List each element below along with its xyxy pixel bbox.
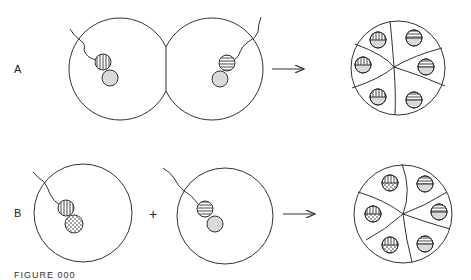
rosette-b (354, 164, 452, 263)
tail-a-right (234, 17, 261, 60)
tail-b-left (33, 172, 60, 205)
nucleus-stipple-b (65, 215, 83, 233)
panel-a-fused-cells (69, 17, 263, 120)
rosette-b-right-cells (417, 176, 447, 252)
nucleus-hstripe-b (197, 201, 213, 217)
figure-caption: FIGURE 000 (14, 270, 76, 280)
rosette-b-left-cells (365, 175, 398, 253)
nucleus-dot-b-right (207, 216, 223, 232)
rosette-a-left-cells (355, 32, 386, 105)
rosette-a-right-cells (406, 30, 434, 108)
rosette-a (351, 21, 445, 115)
nucleus-dot-a-left (102, 70, 118, 86)
panel-b-left-cell (33, 164, 132, 262)
nucleus-dot-a-right (212, 71, 228, 87)
panel-label-b: B (14, 207, 21, 219)
nucleus-vstripe-a (95, 54, 111, 70)
nucleus-vstripe-b (58, 200, 74, 216)
panel-b-right-cell (163, 168, 273, 264)
nucleus-hstripe-a (219, 55, 235, 71)
panel-label-a: A (14, 63, 21, 75)
plus-operator: + (149, 206, 157, 222)
